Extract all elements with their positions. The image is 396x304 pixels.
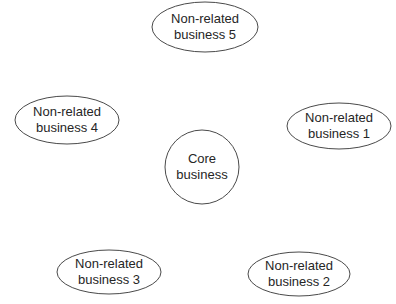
node-label-line2: business 3	[78, 272, 140, 288]
node-label-line2: business 5	[174, 27, 236, 43]
node-label-line1: Non-related	[305, 110, 373, 126]
node-label-line1: Non-related	[33, 104, 101, 120]
node-label-line2: business 4	[36, 120, 98, 136]
node-non-related-business-3: Non-related business 3	[75, 256, 143, 288]
node-label-line1: Non-related	[171, 11, 239, 27]
node-non-related-business-4: Non-related business 4	[33, 104, 101, 136]
node-non-related-business-2: Non-related business 2	[265, 258, 333, 290]
core-label-line1: Core	[188, 151, 216, 167]
node-label-line2: business 1	[308, 126, 370, 142]
core-label-line2: business	[176, 167, 227, 183]
node-core-business: Core business	[176, 151, 227, 183]
node-non-related-business-1: Non-related business 1	[305, 110, 373, 142]
node-non-related-business-5: Non-related business 5	[171, 11, 239, 43]
node-label-line2: business 2	[268, 274, 330, 290]
node-label-line1: Non-related	[265, 258, 333, 274]
node-label-line1: Non-related	[75, 256, 143, 272]
